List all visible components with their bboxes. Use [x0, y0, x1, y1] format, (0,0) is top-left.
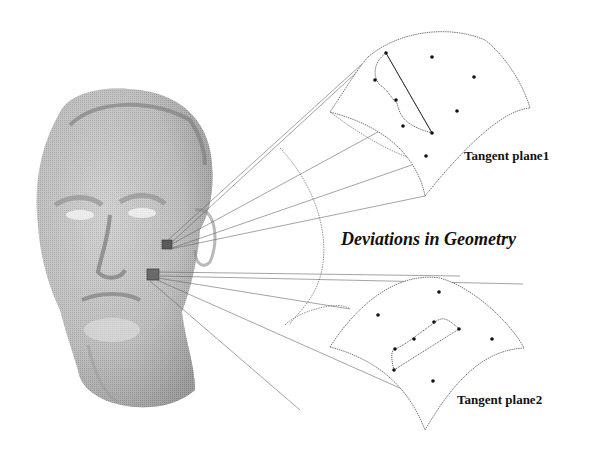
figure: Tangent plane1 Deviations in Geometry Ta…	[0, 0, 594, 452]
tangent-plane-1	[330, 32, 530, 196]
tangent-plane-1-label: Tangent plane1	[464, 148, 549, 164]
head-bust	[37, 88, 215, 407]
patch-2	[147, 269, 159, 280]
diagram-canvas	[0, 0, 594, 452]
tangent-plane-2-label: Tangent plane2	[457, 392, 542, 408]
deviation-label: Deviations in Geometry	[341, 229, 516, 250]
